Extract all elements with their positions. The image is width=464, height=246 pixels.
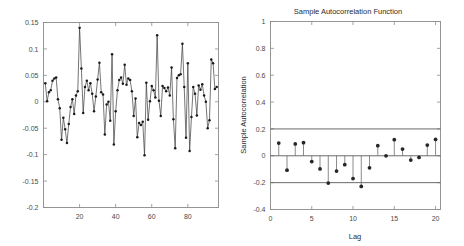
acf-stem-marker [318, 167, 322, 171]
acf-plot-svg: Sample Autocorrelation Function -0.4-0.2… [232, 0, 464, 246]
data-point [44, 82, 47, 85]
data-point [169, 94, 172, 97]
data-point [91, 93, 94, 96]
data-point [75, 94, 78, 97]
data-point [192, 86, 195, 89]
y-tick-label: 1 [262, 18, 266, 25]
data-point [190, 116, 193, 119]
data-point [145, 82, 148, 85]
acf-confidence-bounds [271, 129, 441, 183]
x-tick-label: 40 [112, 213, 120, 220]
acf-stem-marker [434, 138, 438, 142]
x-tick-label: 5 [310, 215, 314, 222]
data-point [201, 83, 204, 86]
data-point [113, 143, 116, 146]
data-point [215, 86, 218, 89]
data-point [48, 91, 51, 94]
data-point [181, 42, 184, 45]
acf-stem-marker [359, 185, 363, 189]
data-point [188, 150, 191, 153]
data-point [151, 85, 154, 88]
data-point [163, 87, 166, 90]
x-tick-label: 60 [148, 213, 156, 220]
data-point [82, 112, 85, 115]
acf-stem-marker [293, 142, 297, 146]
data-point [203, 94, 206, 97]
acf-stem-marker [302, 141, 306, 145]
data-point [167, 86, 170, 89]
data-point [140, 124, 143, 127]
acf-y-axis-label: Sample Autocorrelation [239, 76, 248, 154]
y-tick-label: -0.15 [23, 178, 39, 185]
data-point [165, 90, 168, 93]
figure-root: -0.2-0.15-0.1-0.0500.050.10.1520406080 S… [0, 0, 464, 246]
data-point [158, 99, 161, 102]
y-tick-label: 0.05 [25, 72, 39, 79]
acf-plot-panel: Sample Autocorrelation Function -0.4-0.2… [232, 0, 464, 246]
data-point [214, 88, 217, 91]
data-point [51, 79, 54, 82]
residual-series-group [44, 27, 218, 157]
acf-stem-marker [326, 181, 330, 185]
data-point [114, 110, 117, 113]
y-tick-label: 0.1 [29, 46, 39, 53]
data-point [78, 27, 81, 30]
y-tick-label: 0.2 [256, 126, 266, 133]
data-point [196, 114, 199, 117]
data-point [125, 84, 128, 87]
data-point [68, 123, 71, 126]
data-point [170, 66, 173, 69]
data-point [194, 93, 197, 96]
data-point [138, 122, 141, 125]
data-point [71, 98, 74, 101]
data-point [87, 89, 90, 92]
data-point [84, 86, 87, 89]
data-point [89, 82, 92, 85]
acf-chart-title: Sample Autocorrelation Function [294, 7, 402, 16]
data-point [149, 100, 152, 103]
data-point [206, 127, 209, 130]
data-point [104, 133, 107, 136]
acf-stem-marker [384, 154, 388, 158]
acf-stem-marker [277, 141, 281, 145]
data-point [134, 97, 137, 100]
residual-plot-panel: -0.2-0.15-0.1-0.0500.050.10.1520406080 [0, 0, 232, 246]
data-point [141, 121, 144, 124]
acf-stem-group [277, 138, 438, 189]
data-point [160, 115, 163, 118]
acf-stem-marker [401, 147, 405, 151]
data-point [80, 67, 83, 70]
data-point [143, 154, 146, 157]
x-tick-label: 15 [390, 215, 398, 222]
y-tick-label: -0.05 [23, 125, 39, 132]
acf-stem-marker [409, 158, 413, 162]
y-tick-label: -0.2 [253, 179, 265, 186]
acf-stem-marker [392, 138, 396, 142]
data-point [208, 119, 211, 122]
residual-tick-labels: -0.2-0.15-0.1-0.0500.050.10.1520406080 [23, 19, 192, 219]
acf-stem-marker [417, 155, 421, 159]
data-point [69, 106, 72, 109]
data-point [210, 58, 213, 61]
data-point [122, 83, 125, 86]
data-point [93, 110, 96, 113]
y-tick-label: 0.15 [25, 19, 39, 26]
acf-stem-marker [368, 166, 372, 170]
acf-stem-marker [310, 160, 314, 164]
data-point [185, 136, 188, 139]
data-point [136, 136, 139, 139]
acf-plot-axes [271, 22, 441, 210]
data-point [57, 98, 60, 101]
data-point [49, 89, 52, 92]
data-point [96, 78, 99, 81]
x-tick-label: 20 [76, 213, 84, 220]
data-point [102, 93, 105, 96]
data-point [105, 103, 108, 106]
data-point [132, 115, 135, 118]
data-point [154, 96, 157, 99]
acf-plot-frame [271, 22, 441, 210]
acf-stem-marker [335, 169, 339, 173]
acf-stem-marker [376, 144, 380, 148]
data-point [55, 76, 58, 79]
data-point [161, 85, 164, 88]
